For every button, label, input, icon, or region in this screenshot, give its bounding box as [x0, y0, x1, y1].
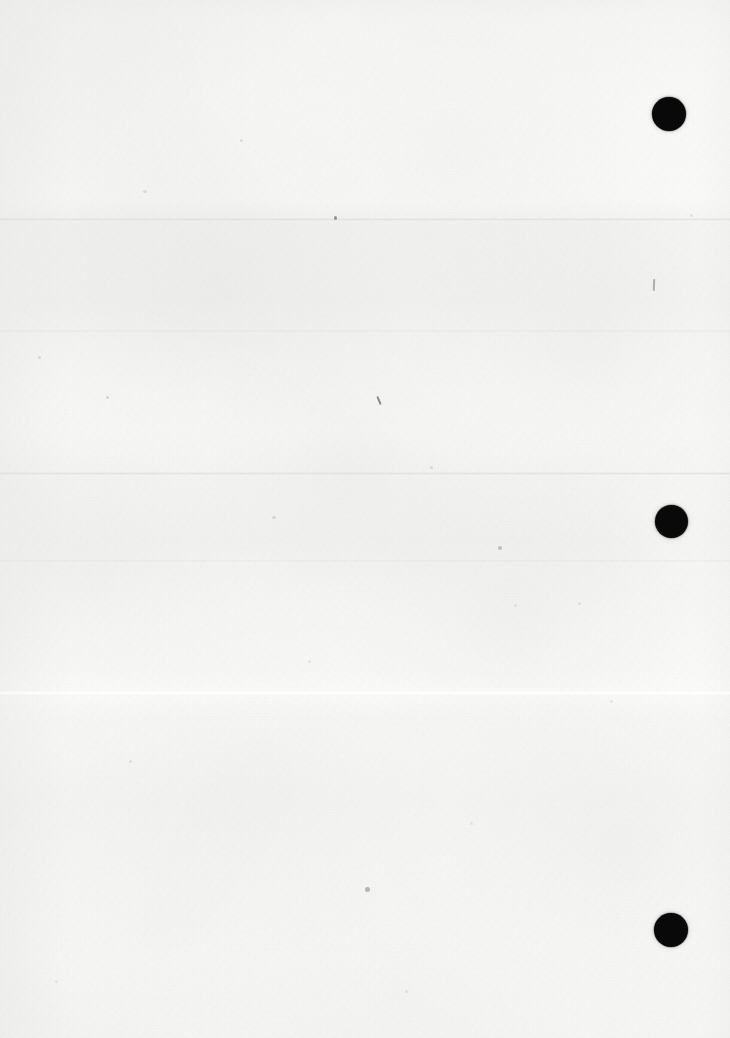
- punch-hole-middle: [655, 505, 688, 538]
- punch-hole-top: [652, 97, 686, 131]
- paper-background: [0, 0, 730, 1038]
- scanned-page: [0, 0, 730, 1038]
- punch-hole-bottom: [654, 913, 688, 947]
